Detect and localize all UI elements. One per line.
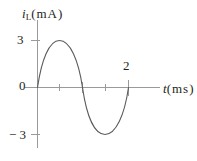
x-tick-label-2: 2 — [123, 59, 130, 72]
x-axis-label: t(ms) — [163, 82, 194, 95]
y-tick-label-minus-3: − 3 — [9, 128, 26, 141]
y-tick-label-3: 3 — [17, 33, 24, 46]
y-tick-label-0: 0 — [19, 79, 26, 92]
x-axis-unit: (ms) — [167, 81, 195, 96]
waveform-figure: iL(mA) t(ms) 3 0 − 3 2 — [0, 0, 197, 161]
y-axis-unit: (mA) — [31, 6, 63, 21]
y-axis-label: iL(mA) — [22, 7, 63, 22]
